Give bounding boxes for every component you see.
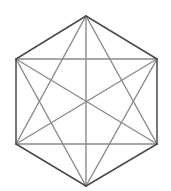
hexagon-edge [16,16,86,59]
diagonal-line [16,59,86,186]
hexagon-edge [86,144,157,186]
diagonal-lines [16,16,157,186]
hexagon-edge [16,144,86,186]
hexagon-diagram [0,0,171,191]
hexagon-edge [86,16,157,59]
